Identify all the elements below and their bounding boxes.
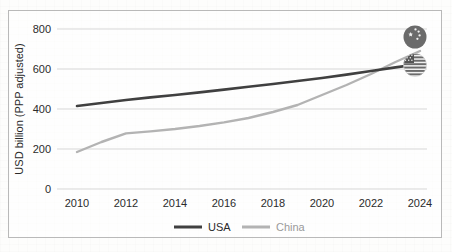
x-tick-label-2010: 2010 [65,197,89,209]
y-tick-label-200: 200 [33,143,51,155]
gridlines [57,29,427,189]
line-chart: 800 600 400 200 0 USD billion (PPP adjus… [9,11,443,239]
legend-label-usa: USA [208,221,231,233]
china-flag-badge [404,26,427,49]
chart-legend: USA China [174,221,306,233]
chart-page: 800 600 400 200 0 USD billion (PPP adjus… [0,0,452,252]
x-tick-label-2024: 2024 [408,197,432,209]
x-axis-ticks: 2010 2012 2014 2016 2018 2020 2022 2024 [65,197,432,209]
x-tick-label-2022: 2022 [359,197,383,209]
chart-frame-border: 800 600 400 200 0 USD billion (PPP adjus… [8,10,442,238]
y-axis-title: USD billion (PPP adjusted) [13,43,25,174]
y-tick-label-800: 800 [33,23,51,35]
y-axis-ticks: 800 600 400 200 0 [33,23,51,195]
x-tick-label-2016: 2016 [212,197,236,209]
x-tick-label-2014: 2014 [163,197,187,209]
data-line-usa [77,64,420,106]
x-tick-label-2020: 2020 [310,197,334,209]
data-line-china [77,51,420,152]
y-tick-label-0: 0 [45,183,51,195]
y-tick-label-400: 400 [33,103,51,115]
x-tick-label-2018: 2018 [261,197,285,209]
y-tick-label-600: 600 [33,63,51,75]
legend-label-china: China [276,221,306,233]
x-tick-label-2012: 2012 [114,197,138,209]
